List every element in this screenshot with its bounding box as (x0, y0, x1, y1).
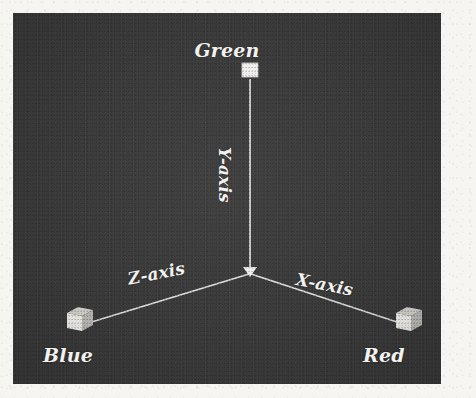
blue-axis-endpoint-label: Blue (43, 344, 93, 366)
y-axis-label: Y-axis (215, 147, 235, 203)
figure-container: Green Blue Red Y-axis Z-axis X-axis (0, 0, 476, 398)
red-cube-marker (396, 307, 422, 331)
green-axis-endpoint-label: Green (13, 39, 441, 61)
z-axis-line (85, 274, 249, 324)
blue-cube-marker (67, 307, 93, 331)
green-cube-marker (242, 63, 258, 77)
red-axis-endpoint-label: Red (363, 344, 405, 366)
scene-panel: Green Blue Red Y-axis Z-axis X-axis (13, 13, 441, 384)
